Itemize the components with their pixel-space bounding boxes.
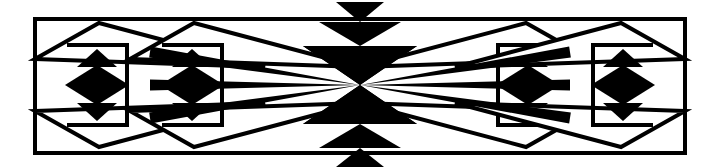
ornament-drawing	[0, 0, 712, 167]
artwork-canvas: Navajo-style geometric border ornament S…	[0, 0, 712, 167]
